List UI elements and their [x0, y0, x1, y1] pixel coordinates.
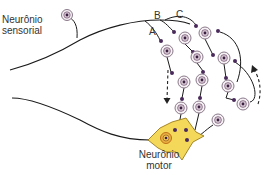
interneurons	[161, 27, 249, 126]
interneuron-icon	[218, 52, 230, 64]
sensory-neuron-label-line2: sensorial	[2, 25, 43, 36]
interneuron-icon	[237, 98, 249, 110]
interneuron-icon	[191, 51, 203, 63]
motor-neuron-label-line1: Neurônio	[133, 149, 185, 160]
motor-axon	[12, 98, 150, 140]
branch-b	[160, 20, 174, 32]
sensory-neuron-label-line1: Neurônio	[2, 14, 43, 25]
interneuron-icon	[222, 80, 234, 92]
interneuron-icon	[161, 45, 173, 57]
interneuron-icon	[175, 102, 187, 114]
motor-neuron-label-line2: motor	[133, 160, 185, 171]
interneuron-icon	[178, 76, 190, 88]
interneuron-icon	[199, 27, 211, 39]
branch-c-label: C	[176, 10, 183, 20]
sensory-stalk	[69, 17, 77, 38]
branch-b-label: B	[154, 11, 161, 21]
interneuron-icon	[196, 74, 208, 86]
interneuron-icon	[179, 32, 191, 44]
branch-a-label: A	[149, 27, 156, 37]
sensory-neuron-label: Neurônio sensorial	[2, 14, 43, 36]
sensory-neuron-icon	[62, 10, 73, 21]
dashed-down-arrow-icon	[164, 70, 171, 104]
motor-neuron-label: Neurônio motor	[133, 149, 185, 171]
interneuron-icon	[212, 114, 224, 126]
dashed-up-arrow-icon	[251, 65, 260, 104]
interneuron-icon	[193, 101, 205, 113]
